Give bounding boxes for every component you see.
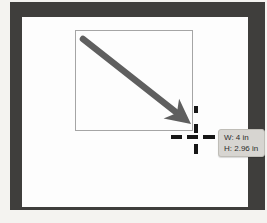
screenshot-figure: W: 4 in H: 2.96 in bbox=[0, 0, 267, 223]
selection-rectangle bbox=[75, 30, 193, 131]
size-tooltip: W: 4 in H: 2.96 in bbox=[218, 129, 265, 157]
tooltip-height-label: H: 2.96 in bbox=[224, 143, 264, 154]
tooltip-width-label: W: 4 in bbox=[224, 132, 264, 143]
